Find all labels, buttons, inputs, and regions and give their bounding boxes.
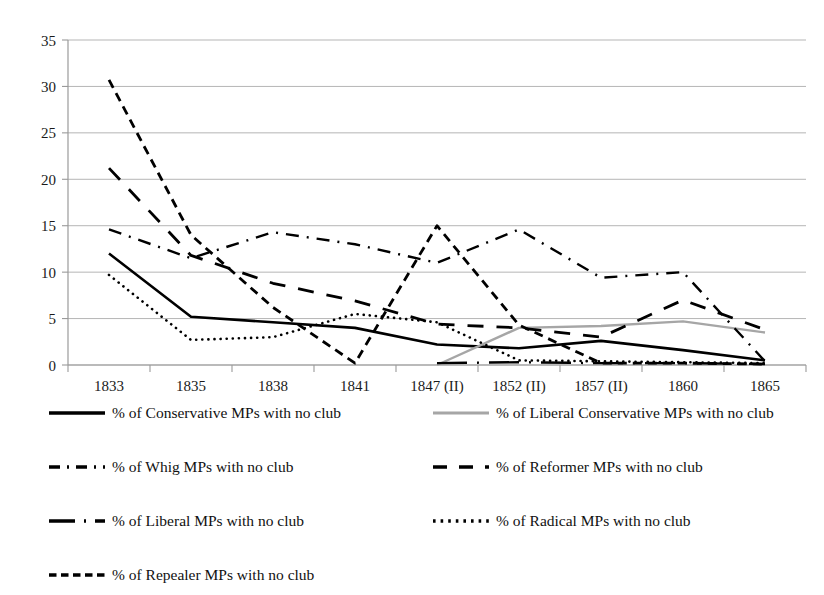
data-series-lines [109, 80, 765, 365]
x-axis [68, 365, 806, 372]
legend-item-liberal-conservative: % of Liberal Conservative MPs with no cl… [432, 400, 774, 426]
legend-row: % of Repealer MPs with no club [0, 562, 824, 588]
legend-row: % of Conservative MPs with no club % of … [0, 400, 824, 426]
legend-label-repealer: % of Repealer MPs with no club [112, 566, 314, 584]
y-tick-label: 25 [41, 125, 56, 141]
legend-item-reformer: % of Reformer MPs with no club [432, 454, 703, 480]
legend-swatch-radical [432, 514, 490, 528]
legend-label-liberal-conservative: % of Liberal Conservative MPs with no cl… [496, 404, 774, 422]
chart-figure: 05101520253035 18331835183818411847 (II)… [0, 0, 824, 595]
legend-label-conservative: % of Conservative MPs with no club [112, 404, 341, 422]
chart-legend: % of Conservative MPs with no club % of … [0, 396, 824, 595]
y-tick-label: 10 [41, 265, 56, 281]
y-tick-label: 35 [41, 33, 56, 49]
y-tick-label: 20 [41, 172, 56, 188]
y-axis [62, 40, 68, 365]
legend-label-radical: % of Radical MPs with no club [496, 512, 691, 530]
legend-item-radical: % of Radical MPs with no club [432, 508, 691, 534]
legend-item-liberal: % of Liberal MPs with no club [48, 508, 304, 534]
line-chart-plot: 05101520253035 [0, 0, 824, 400]
legend-item-whig: % of Whig MPs with no club [48, 454, 293, 480]
legend-swatch-reformer [432, 460, 490, 474]
legend-label-liberal: % of Liberal MPs with no club [112, 512, 304, 530]
y-tick-label: 0 [49, 358, 57, 374]
y-tick-label: 5 [49, 311, 57, 327]
legend-swatch-conservative [48, 406, 106, 420]
legend-row: % of Whig MPs with no club % of Reformer… [0, 454, 824, 480]
legend-item-repealer: % of Repealer MPs with no club [48, 562, 314, 588]
legend-item-conservative: % of Conservative MPs with no club [48, 400, 341, 426]
grid-lines [68, 40, 806, 365]
y-tick-labels: 05101520253035 [41, 33, 56, 374]
legend-swatch-whig [48, 460, 106, 474]
legend-swatch-liberal [48, 514, 106, 528]
y-tick-label: 15 [41, 218, 56, 234]
legend-row: % of Liberal MPs with no club % of Radic… [0, 508, 824, 534]
y-tick-label: 30 [41, 79, 56, 95]
legend-swatch-liberal-conservative [432, 406, 490, 420]
legend-label-whig: % of Whig MPs with no club [112, 458, 293, 476]
legend-label-reformer: % of Reformer MPs with no club [496, 458, 703, 476]
legend-swatch-repealer [48, 568, 106, 582]
series-line-1 [437, 321, 765, 365]
